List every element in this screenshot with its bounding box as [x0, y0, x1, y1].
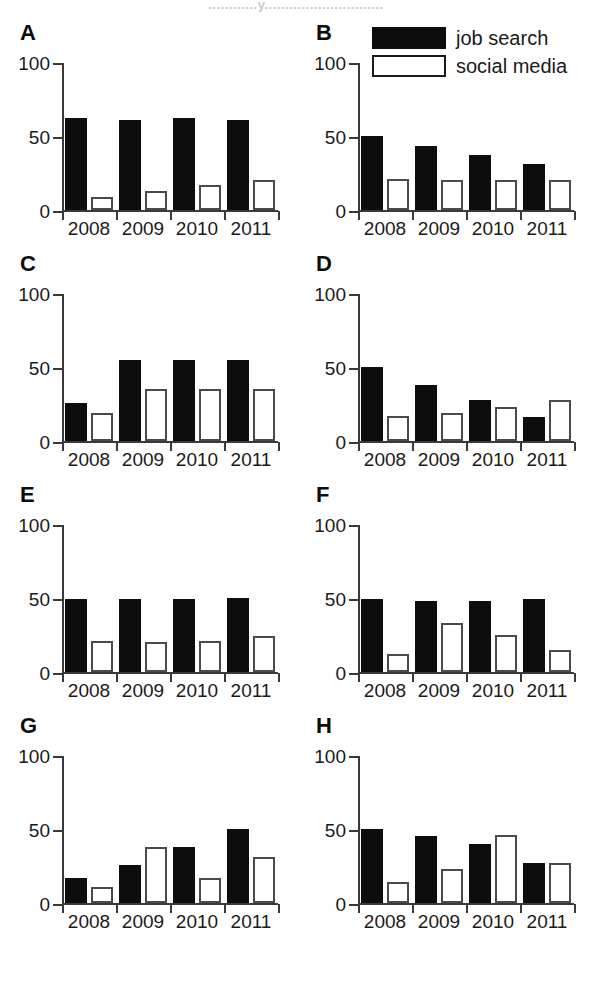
bar-social-media [549, 863, 572, 903]
bar-social-media [549, 400, 572, 441]
y-axis-tick [349, 830, 360, 832]
plot-area: 0501002008200920102011 [62, 64, 278, 212]
x-axis-tick-label: 2010 [472, 680, 514, 702]
x-axis-tick-label: 2011 [231, 218, 272, 240]
x-axis-tick-label: 2009 [122, 218, 164, 240]
bar-social-media [253, 636, 276, 672]
bar-job-search [119, 599, 142, 672]
bar-social-media [387, 179, 410, 210]
x-axis-tick [116, 211, 118, 220]
bar-social-media [199, 641, 222, 672]
x-axis-tick [520, 904, 522, 913]
bar-social-media [253, 857, 276, 903]
bar-social-media [199, 185, 222, 210]
chart-panel-h: H0501002008200920102011 [296, 711, 592, 956]
y-axis-tick-label: 100 [314, 53, 346, 75]
x-axis-tick-label: 2010 [472, 911, 514, 933]
x-axis-tick [412, 904, 414, 913]
y-axis-tick-label: 0 [335, 201, 346, 223]
y-axis-tick [349, 63, 360, 65]
chart-panel-a: A0501002008200920102011 [0, 18, 296, 263]
x-axis-tick [224, 904, 226, 913]
x-axis-tick [278, 673, 280, 682]
y-axis-tick [349, 599, 360, 601]
bar-social-media [441, 869, 464, 903]
bar-social-media [145, 389, 168, 441]
x-axis-tick [466, 442, 468, 451]
x-axis-tick-label: 2009 [418, 449, 460, 471]
bar-social-media [387, 882, 410, 903]
y-axis-tick [349, 756, 360, 758]
bar-social-media [441, 623, 464, 672]
bar-job-search [65, 599, 88, 672]
y-axis-tick-label: 100 [18, 284, 50, 306]
x-axis-tick [358, 673, 360, 682]
panel-letter-b: B [316, 20, 332, 46]
plot-area: 0501002008200920102011 [358, 64, 574, 212]
panel-letter-c: C [20, 251, 36, 277]
y-axis-tick-label: 100 [18, 53, 50, 75]
bar-job-search [173, 847, 196, 903]
bar-job-search [173, 118, 196, 210]
x-axis-tick-label: 2010 [176, 218, 218, 240]
bar-job-search [227, 829, 250, 903]
bar-job-search [415, 601, 438, 672]
bar-social-media [91, 197, 114, 210]
chart-panel-f: F0501002008200920102011 [296, 480, 592, 725]
y-axis-tick-label: 0 [335, 663, 346, 685]
x-axis-tick [62, 442, 64, 451]
x-axis-tick-label: 2008 [68, 449, 110, 471]
x-axis-tick-label: 2009 [122, 680, 164, 702]
x-axis-tick [466, 673, 468, 682]
x-axis-tick-label: 2009 [122, 449, 164, 471]
x-axis-tick [520, 211, 522, 220]
x-axis-tick-label: 2010 [472, 449, 514, 471]
panel-letter-a: A [20, 20, 36, 46]
bar-job-search [65, 878, 88, 903]
bar-job-search [361, 367, 384, 441]
y-axis-tick-label: 100 [314, 284, 346, 306]
y-axis-tick-label: 50 [325, 127, 346, 149]
x-axis-tick [116, 442, 118, 451]
x-axis-tick [62, 904, 64, 913]
bar-social-media [387, 416, 410, 441]
y-axis-tick-label: 100 [18, 515, 50, 537]
x-axis-tick [224, 442, 226, 451]
bar-social-media [441, 413, 464, 441]
x-axis-tick-label: 2008 [68, 680, 110, 702]
y-axis-tick-label: 0 [39, 663, 50, 685]
x-axis-tick-label: 2008 [364, 218, 406, 240]
x-axis-tick [466, 211, 468, 220]
plot-area: 0501002008200920102011 [62, 526, 278, 674]
x-axis-tick-label: 2010 [176, 680, 218, 702]
y-axis-tick [349, 525, 360, 527]
x-axis-tick-label: 2011 [231, 911, 272, 933]
bar-social-media [441, 180, 464, 210]
bar-job-search [523, 164, 546, 210]
x-axis-tick-label: 2008 [68, 911, 110, 933]
plot-area: 0501002008200920102011 [358, 526, 574, 674]
bar-job-search [361, 829, 384, 903]
y-axis-tick-label: 50 [29, 820, 50, 842]
chart-panel-d: D0501002008200920102011 [296, 249, 592, 494]
bar-social-media [549, 650, 572, 672]
bar-job-search [415, 836, 438, 903]
y-axis-tick [53, 599, 64, 601]
bar-social-media [145, 642, 168, 672]
x-axis-tick-label: 2010 [176, 449, 218, 471]
bar-job-search [523, 863, 546, 903]
bar-job-search [361, 599, 384, 672]
bar-job-search [469, 400, 492, 441]
x-axis-tick [574, 442, 576, 451]
bar-social-media [495, 635, 518, 672]
bar-job-search [227, 598, 250, 672]
bar-social-media [495, 407, 518, 441]
x-axis-tick-label: 2010 [472, 218, 514, 240]
x-axis-tick [466, 904, 468, 913]
x-axis-tick-label: 2011 [231, 680, 272, 702]
x-axis-tick [170, 904, 172, 913]
bar-job-search [523, 417, 546, 441]
chart-panel-g: G0501002008200920102011 [0, 711, 296, 956]
y-axis-tick-label: 0 [39, 894, 50, 916]
x-axis-tick [412, 442, 414, 451]
